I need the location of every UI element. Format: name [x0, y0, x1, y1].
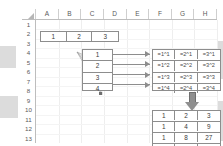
table-row: 1 2 3 [41, 32, 118, 41]
select-all-corner[interactable] [22, 9, 36, 19]
evaluate-down-arrow-icon [185, 92, 199, 111]
row-to-formula-arrow-2 [113, 61, 150, 68]
table-row: 3 [83, 73, 112, 84]
formula-cell[interactable]: =3^1 [198, 50, 220, 59]
formula-cell[interactable]: =2^1 [175, 50, 197, 59]
result-cell[interactable]: 1 [153, 133, 175, 142]
table-row: =1^2 =2^2 =3^2 [153, 61, 220, 72]
result-cell[interactable]: 1 [153, 111, 175, 120]
power-formulas-table: =1^1 =2^1 =3^1 =1^2 =2^2 =3^2 =1^3 =2^3 … [152, 49, 221, 91]
page-edge-patch-left-top [0, 46, 16, 68]
row-header-12[interactable]: 12 [22, 124, 35, 133]
column-header-c[interactable]: C [81, 9, 104, 19]
formula-cell[interactable]: =2^2 [175, 61, 197, 70]
base-cell[interactable]: 1 [41, 32, 67, 41]
row-header-5[interactable]: 5 [22, 58, 35, 67]
formula-cell[interactable]: =2^3 [175, 73, 197, 82]
table-row: 2 [83, 61, 112, 72]
result-cell[interactable]: 8 [175, 133, 197, 142]
exponent-values-table: 1 2 3 4 [82, 49, 113, 91]
result-cell[interactable]: 81 [198, 144, 220, 146]
arrow-head-icon [145, 51, 150, 57]
table-row: 1 16 81 [153, 144, 220, 146]
table-row: 4 [83, 84, 112, 94]
table-row: =1^1 =2^1 =3^1 [153, 50, 220, 61]
table-row: =1^3 =2^3 =3^3 [153, 73, 220, 84]
row-header-2[interactable]: 2 [22, 29, 35, 38]
column-header-b[interactable]: B [59, 9, 82, 19]
arrow-head-icon [145, 82, 150, 88]
column-header-e[interactable]: E [127, 9, 150, 19]
page-edge-patch-left-bottom [0, 96, 18, 118]
column-header-strip: ABCDEFGH [22, 9, 217, 20]
base-values-table: 1 2 3 [40, 31, 119, 42]
result-cell[interactable]: 2 [175, 111, 197, 120]
table-row: 1 [83, 50, 112, 61]
table-row: 1 2 3 [153, 111, 220, 122]
row-to-formula-arrow-4 [113, 81, 150, 88]
formula-cell[interactable]: =3^3 [198, 73, 220, 82]
select-all-triangle-icon [28, 13, 34, 19]
spreadsheet: ABCDEFGH 12345678910111213 1 2 3 1 2 [22, 9, 217, 143]
result-cell[interactable]: 16 [175, 144, 197, 146]
column-header-f[interactable]: F [149, 9, 172, 19]
row-header-10[interactable]: 10 [22, 105, 35, 114]
result-cell[interactable]: 1 [153, 122, 175, 131]
exponent-cell[interactable]: 4 [83, 84, 112, 93]
result-cell[interactable]: 27 [198, 133, 220, 142]
row-to-formula-arrow-1 [113, 51, 150, 58]
result-cell[interactable]: 1 [153, 144, 175, 146]
table-row: 1 8 27 [153, 133, 220, 144]
exponent-cell[interactable]: 2 [83, 61, 112, 70]
row-header-3[interactable]: 3 [22, 39, 35, 48]
column-header-d[interactable]: D [104, 9, 127, 19]
base-cell[interactable]: 3 [92, 32, 118, 41]
row-header-11[interactable]: 11 [22, 115, 35, 124]
row-header-strip: 12345678910111213 [22, 20, 36, 143]
column-header-a[interactable]: A [36, 9, 59, 19]
row-header-6[interactable]: 6 [22, 67, 35, 76]
formula-cell[interactable]: =3^2 [198, 61, 220, 70]
formula-cell[interactable]: =1^2 [153, 61, 175, 70]
formula-cell[interactable]: =1^4 [153, 84, 175, 93]
result-cell[interactable]: 4 [175, 122, 197, 131]
exponent-cell[interactable]: 3 [83, 73, 112, 82]
column-header-g[interactable]: G [172, 9, 195, 19]
formula-cell[interactable]: =1^3 [153, 73, 175, 82]
arrow-head-icon [145, 61, 150, 67]
row-header-1[interactable]: 1 [22, 20, 35, 29]
result-cell[interactable]: 9 [198, 122, 220, 131]
row-to-formula-arrow-3 [113, 71, 150, 78]
row-header-8[interactable]: 8 [22, 86, 35, 95]
base-cell[interactable]: 2 [67, 32, 93, 41]
row-header-4[interactable]: 4 [22, 48, 35, 57]
computed-results-table: 1 2 3 1 4 9 1 8 27 1 16 81 [152, 110, 221, 146]
column-header-h[interactable]: H [194, 9, 217, 19]
arrow-head-icon [145, 72, 150, 78]
row-header-13[interactable]: 13 [22, 134, 35, 143]
exponent-cell[interactable]: 1 [83, 50, 112, 59]
table-row: 1 4 9 [153, 122, 220, 133]
row-header-9[interactable]: 9 [22, 96, 35, 105]
result-cell[interactable]: 3 [198, 111, 220, 120]
row-header-7[interactable]: 7 [22, 77, 35, 86]
formula-cell[interactable]: =3^4 [198, 84, 220, 93]
formula-cell[interactable]: =1^1 [153, 50, 175, 59]
